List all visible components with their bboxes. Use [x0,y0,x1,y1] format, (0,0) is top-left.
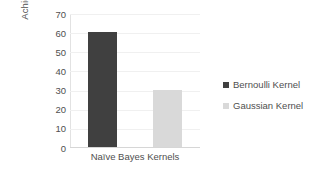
chart-legend: Bernoulli KernelGaussian Kernel [223,74,319,116]
bar-bernoulli-kernel [88,32,117,147]
legend-label: Bernoulli Kernel [233,79,300,90]
x-axis-line [70,147,200,148]
y-axis-tick-label: 60 [44,28,66,39]
legend-swatch-icon [223,82,229,88]
plot-area [70,14,200,148]
y-axis-title: Maximum Accuracu Achieved [9,0,41,32]
y-axis-title-line-2: Achieved [19,0,31,20]
y-axis-tick-label: 10 [44,123,66,134]
y-axis-tick-label: 70 [44,9,66,20]
legend-swatch-icon [223,103,229,109]
x-axis-title: Naïve Bayes Kernels [70,151,200,162]
y-axis-tick-label: 40 [44,66,66,77]
bar-gaussian-kernel [153,90,182,147]
gridline [70,14,200,15]
bar-chart: Maximum Accuracu Achieved 70605040302010… [0,0,321,176]
y-axis-tick-label: 0 [44,143,66,154]
y-axis-tick-label: 30 [44,85,66,96]
legend-item[interactable]: Gaussian Kernel [223,95,319,116]
y-axis-tick-label: 50 [44,47,66,58]
y-axis-tick-labels: 706050403020100 [44,8,66,153]
legend-item[interactable]: Bernoulli Kernel [223,74,319,95]
legend-label: Gaussian Kernel [233,100,303,111]
y-axis-tick-label: 20 [44,104,66,115]
